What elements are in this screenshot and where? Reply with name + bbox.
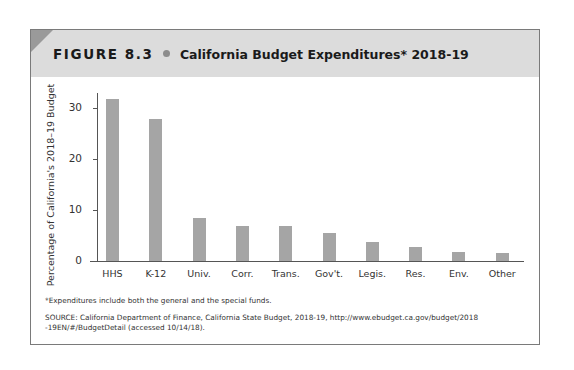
bar-res [409,247,422,261]
x-tick-label: Gov't. [307,268,351,279]
bar-univ [193,218,206,261]
bar-hhs [106,99,119,261]
x-tick-label: Other [480,268,524,279]
bar-legis [366,242,379,261]
source-line-1: SOURCE: California Department of Finance… [45,313,478,322]
footnote: *Expenditures include both the general a… [45,296,272,305]
y-tick-label: 20 [52,152,82,164]
y-axis-line [97,93,98,262]
x-tick-label: HHS [91,268,135,279]
x-tick-label: Trans. [264,268,308,279]
x-tick-label: Env. [437,268,481,279]
bar-trans [279,226,292,261]
x-tick-label: Res. [394,268,438,279]
y-tick-label: 0 [52,254,82,266]
bar-corr [236,226,249,261]
y-tick [93,261,97,262]
bar-govt [323,233,336,261]
x-tick-label: Corr. [220,268,264,279]
y-tick-label: 10 [52,203,82,215]
x-tick-label: K-12 [134,268,178,279]
x-tick-label: Univ. [177,268,221,279]
y-tick [93,159,97,160]
y-tick-label: 30 [52,101,82,113]
bar-env [452,252,465,261]
bar-k12 [149,119,162,261]
x-tick-label: Legis. [350,268,394,279]
bar-other [496,253,509,261]
source-line-2: -19EN/#/BudgetDetail (accessed 10/14/18)… [45,323,205,332]
y-tick [93,108,97,109]
x-axis-line [90,261,524,262]
y-tick [93,210,97,211]
